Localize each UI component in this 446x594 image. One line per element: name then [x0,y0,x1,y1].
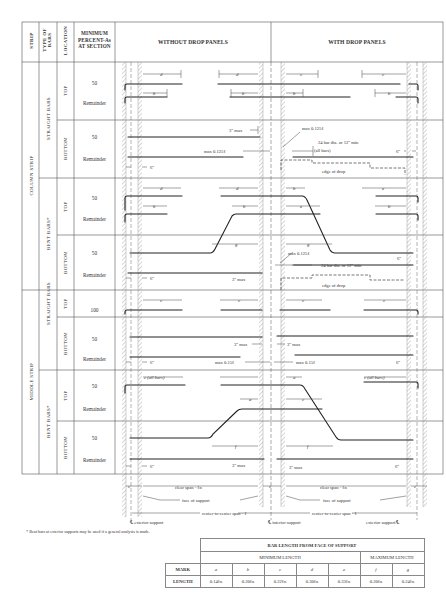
svg-text:edge of drop: edge of drop [322,169,346,174]
svg-text:6": 6" [396,360,400,365]
svg-text:c: c [128,484,131,489]
svg-text:exterior support ℄: exterior support ℄ [366,520,400,525]
minimum-length-label: MINIMUM LENGTH [200,552,360,564]
svg-text:d: d [236,72,239,77]
svg-text:g: g [307,242,310,247]
svg-text:b: b [293,186,296,191]
svg-text:c: c [160,298,163,303]
svg-text:3" max: 3" max [229,128,243,133]
svg-text:6": 6" [396,149,400,154]
mark-label: MARK [166,564,201,576]
svg-text:f: f [235,444,237,449]
svg-text:b: b [153,91,156,96]
maximum-length-label: MAXIMUM LENGTH [360,552,424,564]
svg-text:max 0.125ℓ: max 0.125ℓ [302,126,324,131]
svg-text:℄ exterior support: ℄ exterior support [129,520,164,525]
footnote: * Bent bars at exterior supports may be … [26,529,150,534]
svg-text:clear span - ℓn: clear span - ℓn [320,485,348,490]
svg-text:c (all bars): c (all bars) [144,375,165,380]
svg-text:24 bar dia. or 12" min: 24 bar dia. or 12" min [321,263,362,268]
svg-text:max 0.125ℓ: max 0.125ℓ [288,251,310,256]
svg-text:a: a [249,397,252,402]
svg-text:b: b [243,204,246,209]
svg-text:c: c [302,298,305,303]
svg-text:max 0.125ℓ: max 0.125ℓ [204,149,226,154]
svg-text:b: b [242,91,245,96]
svg-text:g: g [235,242,238,247]
dimension-annotations: d b d b c b c b d b d b b e e b g g c c … [0,0,446,594]
svg-text:c: c [269,484,272,489]
svg-text:b: b [388,91,391,96]
svg-text:6": 6" [397,256,401,261]
svg-text:edge of drop: edge of drop [322,283,346,288]
bar-length-title: BAR LENGTH FROM FACE OF SUPPORT [200,539,424,552]
svg-text:6": 6" [150,360,154,365]
svg-text:c: c [383,298,386,303]
svg-text:a: a [293,375,296,380]
svg-text:center-to-center span - ℓ: center-to-center span - ℓ [312,511,357,516]
svg-text:max 0.15ℓ: max 0.15ℓ [296,360,315,365]
svg-text:center-to-center span - ℓ: center-to-center span - ℓ [202,511,247,516]
svg-text:c: c [302,397,305,402]
svg-text:e: e [382,186,385,191]
svg-text:d: d [160,186,163,191]
svg-text:3" max: 3" max [289,465,303,470]
svg-text:c: c [382,72,385,77]
svg-text:f: f [307,444,309,449]
svg-text:6": 6" [150,464,154,469]
svg-text:c: c [414,484,417,489]
svg-text:24 bar dia. or 12" min: 24 bar dia. or 12" min [318,140,359,145]
svg-text:℄ interior support: ℄ interior support [267,520,301,525]
svg-text:face of support: face of support [182,498,210,503]
svg-text:6": 6" [150,276,154,281]
svg-text:3" max: 3" max [232,277,246,282]
bar-length-table: BAR LENGTH FROM FACE OF SUPPORT MINIMUM … [165,538,425,588]
svg-text:d: d [236,186,239,191]
svg-text:(all bars): (all bars) [314,148,331,153]
dim-d: d [160,72,163,77]
svg-text:b: b [388,204,391,209]
svg-text:face of support: face of support [323,498,351,503]
svg-text:clear span - ℓn: clear span - ℓn [175,485,203,490]
svg-text:c (all bars): c (all bars) [364,375,385,380]
svg-text:e: e [300,204,303,209]
svg-text:c: c [300,72,303,77]
svg-text:b: b [293,91,296,96]
svg-text:6": 6" [150,165,154,170]
svg-text:6": 6" [395,464,399,469]
svg-text:3" max: 3" max [287,342,301,347]
svg-text:3" max: 3" max [232,463,246,468]
length-label: LENGTH [166,576,201,588]
svg-text:max 0.15ℓ: max 0.15ℓ [215,360,234,365]
svg-text:c: c [238,298,241,303]
svg-text:b: b [153,204,156,209]
svg-text:3" max: 3" max [234,342,248,347]
